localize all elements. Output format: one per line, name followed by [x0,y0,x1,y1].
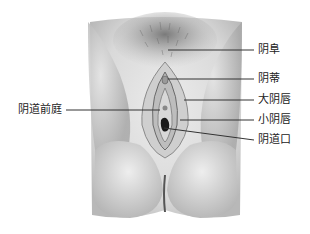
label-vaginal-orifice: 阴道口 [258,134,291,146]
clitoris [162,76,168,84]
label-labia-minora: 小阴唇 [258,114,291,126]
urethral-opening [163,106,168,111]
label-clitoris: 阴蒂 [258,73,280,85]
mons-pubis-region [113,12,217,68]
label-vestibule: 阴道前庭 [18,104,62,116]
label-mons-pubis: 阴阜 [258,44,280,56]
label-labia-majora: 大阴唇 [258,94,291,106]
